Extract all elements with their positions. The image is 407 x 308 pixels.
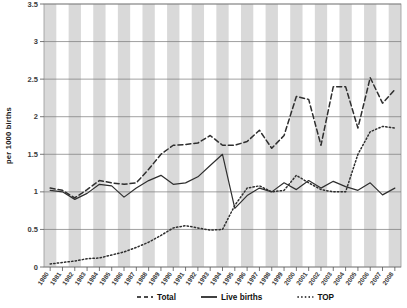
y-tick-label: 2.5 bbox=[28, 75, 38, 84]
y-tick-label: 1.5 bbox=[28, 150, 38, 159]
x-tick-label: 1995 bbox=[221, 270, 235, 286]
x-tick-label: 1983 bbox=[73, 270, 87, 286]
x-tick-label: 2005 bbox=[344, 270, 358, 286]
legend-label-top: TOP bbox=[317, 293, 334, 302]
year-band bbox=[44, 4, 56, 267]
x-tick-label: 1981 bbox=[48, 270, 62, 286]
y-tick-label: 3.5 bbox=[28, 0, 38, 9]
x-tick-label: 1997 bbox=[245, 270, 259, 286]
x-tick-label: 1987 bbox=[122, 270, 136, 286]
year-band bbox=[364, 4, 376, 267]
year-band bbox=[118, 4, 130, 267]
x-tick-label: 2006 bbox=[356, 270, 370, 286]
x-tick-label: 2004 bbox=[332, 270, 346, 286]
year-band bbox=[339, 4, 351, 267]
x-tick-label: 1998 bbox=[258, 270, 272, 286]
x-tick-label: 1991 bbox=[171, 270, 185, 286]
x-tick-label: 1993 bbox=[196, 270, 210, 286]
year-band bbox=[69, 4, 81, 267]
x-tick-label: 1982 bbox=[61, 270, 75, 286]
y-tick-label: 0 bbox=[34, 263, 38, 272]
x-tick-label: 2007 bbox=[368, 270, 382, 286]
year-band bbox=[241, 4, 253, 267]
x-tick-label: 2000 bbox=[282, 270, 296, 286]
x-tick-label: 1986 bbox=[110, 270, 124, 286]
x-tick-label: 1999 bbox=[270, 270, 284, 286]
x-tick-label: 2001 bbox=[295, 270, 309, 286]
x-tick-label: 1980 bbox=[36, 270, 50, 286]
legend-label-total: Total bbox=[157, 293, 176, 302]
y-axis-label: per 1000 births bbox=[4, 107, 13, 164]
year-band bbox=[216, 4, 228, 267]
x-tick-label: 1996 bbox=[233, 270, 247, 286]
x-tick-label: 2008 bbox=[381, 270, 395, 286]
year-band bbox=[93, 4, 105, 267]
x-tick-label: 1990 bbox=[159, 270, 173, 286]
x-tick-label: 1992 bbox=[184, 270, 198, 286]
x-tick-label: 1994 bbox=[208, 270, 222, 286]
y-tick-label: 2 bbox=[34, 112, 38, 121]
x-tick-label: 1988 bbox=[135, 270, 149, 286]
legend-label-live-births: Live births bbox=[221, 293, 263, 302]
line-chart: 00.511.522.533.5per 1000 births198019811… bbox=[0, 0, 407, 308]
x-tick-label: 1984 bbox=[85, 270, 99, 286]
x-tick-label: 1985 bbox=[98, 270, 112, 286]
year-band bbox=[315, 4, 327, 267]
chart-container: 00.511.522.533.5per 1000 births198019811… bbox=[0, 0, 407, 308]
y-tick-label: 3 bbox=[34, 37, 38, 46]
x-tick-label: 2002 bbox=[307, 270, 321, 286]
year-band bbox=[389, 4, 401, 267]
y-tick-label: 0.5 bbox=[28, 225, 38, 234]
y-tick-label: 1 bbox=[34, 187, 38, 196]
year-band bbox=[142, 4, 154, 267]
x-tick-label: 2003 bbox=[319, 270, 333, 286]
year-band bbox=[290, 4, 302, 267]
year-band bbox=[266, 4, 278, 267]
x-tick-label: 1989 bbox=[147, 270, 161, 286]
